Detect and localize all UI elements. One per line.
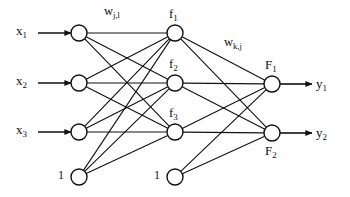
input-label-x3: x3 [16,123,27,139]
hidden-node-f1 [167,25,183,41]
edge-f2-to-F1 [183,83,264,84]
hidden-node-f3 [167,124,183,140]
input-node-x1 [71,25,87,41]
bias-label-hidden-layer: 1 [154,169,160,181]
hidden-node-f2 [167,75,183,91]
hidden-label-f2: f2 [169,57,178,73]
edge-layer [83,33,266,174]
input-node-x3 [71,124,87,140]
bias-label-input-layer: 1 [58,169,64,181]
edge-bias-hidden-layer-to-F2 [182,136,264,173]
weight-label-w-k-j: wk,j [224,36,242,50]
hidden-label-f1: f1 [169,7,178,23]
edge-bias-hidden-layer-to-F1 [181,90,266,172]
bias-node-bias-input-layer [71,169,87,185]
output-node-F1 [264,76,280,92]
input-label-x2: x2 [16,74,27,90]
edge-bias-input-layer-to-f2 [85,89,170,172]
node-layer [71,25,280,185]
input-label-x1: x1 [16,24,27,40]
output-label-F2: F2 [265,144,277,160]
output-value-label-y1: y1 [316,77,327,93]
network-graph-svg [0,0,350,197]
hidden-label-f3: f3 [169,106,178,122]
edge-f3-to-F2 [183,132,264,133]
bias-node-bias-hidden-layer [167,169,183,185]
neural-network-diagram: x1 x2 x3 f1 f2 f3 F1 F2 1 1 y1 y2 wj,l w… [0,0,350,197]
output-label-F1: F1 [265,58,277,74]
output-node-F2 [264,125,280,141]
input-node-x2 [71,75,87,91]
output-value-label-y2: y2 [316,126,327,142]
weight-label-w-j-l: wj,l [104,5,120,19]
edge-bias-input-layer-to-f1 [83,40,170,171]
